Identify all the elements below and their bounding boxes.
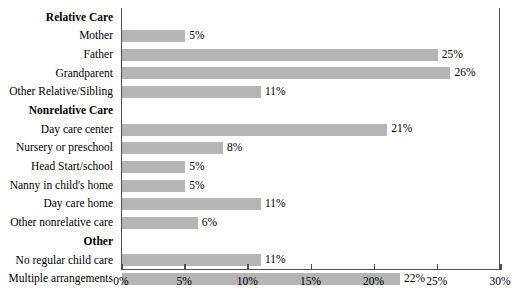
category-label-row: Other Relative/Sibling bbox=[0, 83, 117, 102]
bar bbox=[122, 30, 185, 42]
x-axis-tick bbox=[311, 264, 313, 270]
bar bbox=[122, 217, 198, 229]
x-axis-tick-label: 0% bbox=[113, 276, 128, 288]
category-label: Relative Care bbox=[46, 12, 117, 24]
category-label: Nursery or preschool bbox=[16, 142, 117, 154]
category-label: Other Relative/Sibling bbox=[9, 86, 117, 98]
bar-row-spacer bbox=[122, 8, 499, 27]
bar-row: 5% bbox=[122, 176, 499, 195]
bar-value-label: 6% bbox=[198, 217, 217, 229]
category-label: Mother bbox=[79, 30, 117, 42]
bar bbox=[122, 254, 261, 266]
category-label-row: Father bbox=[0, 45, 117, 64]
bar bbox=[122, 142, 223, 154]
bar bbox=[122, 161, 185, 173]
category-label: Other nonrelative care bbox=[10, 217, 117, 229]
bar-row: 26% bbox=[122, 64, 499, 83]
category-label: Head Start/school bbox=[31, 161, 117, 173]
bar-chart: Relative CareMotherFatherGrandparentOthe… bbox=[0, 0, 525, 307]
category-label: Multiple arrangements bbox=[9, 273, 117, 285]
bar-value-label: 11% bbox=[261, 86, 286, 98]
x-axis-tick bbox=[121, 264, 123, 270]
category-label: Other bbox=[84, 236, 117, 248]
bar-value-label: 21% bbox=[387, 124, 412, 136]
x-axis-tick-label: 20% bbox=[363, 276, 384, 288]
bar bbox=[122, 198, 261, 210]
bar-value-label: 5% bbox=[185, 161, 204, 173]
x-axis-tick bbox=[247, 264, 249, 270]
bar-row-spacer bbox=[122, 232, 499, 251]
bar-row: 21% bbox=[122, 120, 499, 139]
bar-row: 8% bbox=[122, 139, 499, 158]
category-label-row: Day care home bbox=[0, 195, 117, 214]
bar-value-label: 5% bbox=[185, 30, 204, 42]
category-label: Nonrelative Care bbox=[29, 105, 117, 117]
bar-row: 5% bbox=[122, 27, 499, 46]
category-label-row: Mother bbox=[0, 27, 117, 46]
bar bbox=[122, 124, 387, 136]
x-axis-tick-label: 10% bbox=[237, 276, 258, 288]
category-group-header: Other bbox=[0, 232, 117, 251]
category-label: Grandparent bbox=[56, 68, 117, 80]
x-axis-tick-labels: 0%5%10%15%20%25%30% bbox=[121, 276, 500, 296]
bar-row: 11% bbox=[122, 195, 499, 214]
category-group-header: Nonrelative Care bbox=[0, 101, 117, 120]
bar-row: 5% bbox=[122, 158, 499, 177]
x-axis-tick bbox=[184, 264, 186, 270]
bar-rows: 5%25%26%11%21%8%5%5%11%6%11%22% bbox=[122, 8, 499, 288]
category-label-row: Multiple arrangements bbox=[0, 270, 117, 289]
bar-value-label: 11% bbox=[261, 198, 286, 210]
category-label: Nanny in child's home bbox=[10, 180, 117, 192]
bar-value-label: 11% bbox=[261, 255, 286, 267]
x-axis-tick bbox=[437, 264, 439, 270]
bar bbox=[122, 86, 261, 98]
bar-value-label: 26% bbox=[450, 68, 475, 80]
x-axis-tick-label: 30% bbox=[489, 276, 510, 288]
category-label-row: Head Start/school bbox=[0, 158, 117, 177]
x-axis-tick-label: 15% bbox=[300, 276, 321, 288]
bar-value-label: 5% bbox=[185, 180, 204, 192]
bar bbox=[122, 49, 438, 61]
category-label-row: Day care center bbox=[0, 120, 117, 139]
x-axis-tick-label: 25% bbox=[426, 276, 447, 288]
category-label: Day care center bbox=[41, 124, 117, 136]
category-label: Father bbox=[84, 49, 117, 61]
bar-row: 25% bbox=[122, 45, 499, 64]
x-axis-tick bbox=[500, 264, 502, 270]
bar bbox=[122, 180, 185, 192]
bar-row: 11% bbox=[122, 83, 499, 102]
x-axis-tick-label: 5% bbox=[176, 276, 191, 288]
category-label: No regular child care bbox=[16, 255, 117, 267]
category-label-row: No regular child care bbox=[0, 251, 117, 270]
category-group-header: Relative Care bbox=[0, 8, 117, 27]
category-label-row: Other nonrelative care bbox=[0, 214, 117, 233]
category-label-row: Nanny in child's home bbox=[0, 176, 117, 195]
bar-row-spacer bbox=[122, 101, 499, 120]
bar bbox=[122, 67, 450, 79]
x-axis-tick bbox=[374, 264, 376, 270]
bar-row: 6% bbox=[122, 214, 499, 233]
category-label-column: Relative CareMotherFatherGrandparentOthe… bbox=[0, 8, 117, 288]
plot-area: 5%25%26%11%21%8%5%5%11%6%11%22% bbox=[121, 8, 500, 270]
category-label-row: Grandparent bbox=[0, 64, 117, 83]
category-label-row: Nursery or preschool bbox=[0, 139, 117, 158]
bar-value-label: 8% bbox=[223, 142, 242, 154]
category-label: Day care home bbox=[43, 198, 117, 210]
bar-value-label: 25% bbox=[438, 49, 463, 61]
